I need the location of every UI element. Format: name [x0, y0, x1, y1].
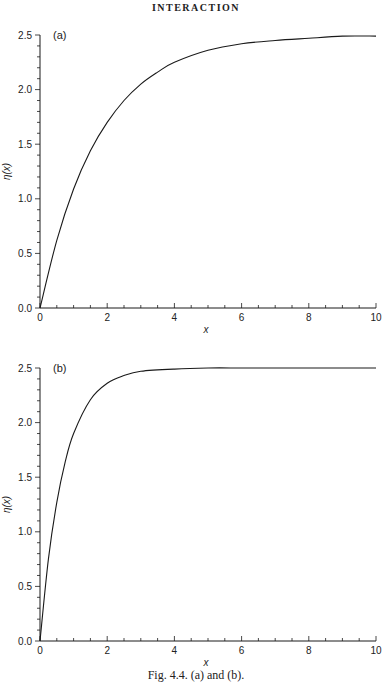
- y-tick-label: 0.5: [18, 248, 32, 259]
- y-tick-label: 2.5: [18, 363, 32, 374]
- y-tick-label: 2.0: [18, 417, 32, 428]
- chart-panel-a: 0.00.51.01.52.02.50246810xη(x)(a): [1, 29, 382, 335]
- x-tick-label: 0: [37, 312, 43, 323]
- x-tick-label: 2: [104, 645, 110, 656]
- y-tick-label: 2.5: [18, 30, 32, 41]
- x-tick-label: 10: [370, 312, 382, 323]
- x-tick-label: 10: [370, 645, 382, 656]
- y-tick-label: 0.0: [18, 303, 32, 314]
- y-axis-label: η(x): [1, 163, 12, 180]
- chart-panel-b: 0.00.51.01.52.02.50246810xη(x)(b): [1, 362, 382, 668]
- x-axis-label: x: [203, 657, 210, 668]
- panel-label: (b): [53, 362, 66, 374]
- data-curve: [40, 36, 376, 308]
- y-tick-label: 0.5: [18, 581, 32, 592]
- figure-caption: Fig. 4.4. (a) and (b).: [0, 668, 392, 683]
- y-axis-label: η(x): [1, 496, 12, 513]
- y-tick-label: 2.0: [18, 84, 32, 95]
- y-tick-label: 1.5: [18, 472, 32, 483]
- y-tick-label: 1.5: [18, 139, 32, 150]
- x-axis-label: x: [203, 324, 210, 335]
- y-tick-label: 1.0: [18, 526, 32, 537]
- x-tick-label: 6: [239, 312, 245, 323]
- x-tick-label: 6: [239, 645, 245, 656]
- x-tick-label: 4: [172, 312, 178, 323]
- data-curve: [40, 368, 376, 641]
- x-tick-label: 4: [172, 645, 178, 656]
- x-tick-label: 8: [306, 312, 312, 323]
- panel-label: (a): [53, 29, 66, 41]
- x-tick-label: 2: [104, 312, 110, 323]
- y-tick-label: 1.0: [18, 193, 32, 204]
- y-tick-label: 0.0: [18, 636, 32, 647]
- x-tick-label: 0: [37, 645, 43, 656]
- x-tick-label: 8: [306, 645, 312, 656]
